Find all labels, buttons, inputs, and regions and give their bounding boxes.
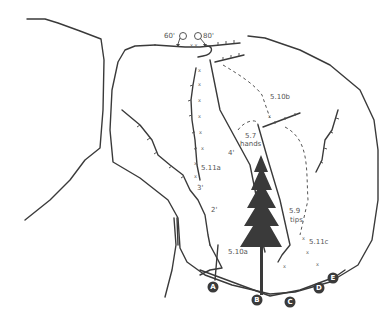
- start-marker-e: E: [328, 273, 339, 284]
- grade-5-10a: 5.10a: [228, 248, 248, 256]
- svg-text:x: x: [194, 173, 197, 179]
- svg-text:x: x: [199, 129, 202, 135]
- grade-5-10b: 5.10b: [270, 93, 291, 101]
- rappel-anchor-left: 60': [164, 32, 187, 47]
- svg-text:C: C: [287, 298, 292, 306]
- grade-5-9: 5.9: [289, 207, 300, 215]
- roof-ledge-2: [215, 55, 244, 62]
- svg-text:x: x: [316, 261, 319, 267]
- svg-text:x: x: [268, 113, 271, 119]
- rappel-label-60: 60': [164, 32, 175, 40]
- route-a-line: [215, 245, 218, 280]
- rappel-label-80: 80': [203, 32, 214, 40]
- summit-edge: [155, 45, 210, 47]
- svg-text:x: x: [198, 97, 201, 103]
- tree-icon: [240, 155, 282, 295]
- svg-text:x: x: [198, 81, 201, 87]
- grade-5-11c: 5.11c: [309, 238, 329, 246]
- note-hands: hands: [240, 140, 262, 148]
- svg-text:x x: x x: [190, 42, 198, 48]
- svg-text:x: x: [302, 235, 305, 241]
- svg-text:x: x: [201, 145, 204, 151]
- svg-text:x: x: [194, 160, 197, 166]
- grade-5-7: 5.7: [245, 132, 256, 140]
- pitch-2: 2': [211, 206, 217, 214]
- svg-text:x: x: [198, 113, 201, 119]
- pitch-3: 3': [197, 184, 203, 192]
- climbing-topo: xxx xxx xx xx xxx x x 60' 80' 5.10b 5.7 …: [0, 0, 391, 325]
- crack-right-ledge-ticks: [275, 113, 295, 124]
- ground-line: [200, 270, 345, 296]
- svg-text:x: x: [198, 67, 201, 73]
- start-marker-d: D: [314, 283, 325, 294]
- svg-text:B: B: [254, 296, 259, 304]
- pitch-4: 4': [228, 149, 234, 157]
- svg-text:x: x: [306, 249, 309, 255]
- note-tips: tips: [290, 216, 303, 224]
- left-rock-outline: [25, 19, 104, 220]
- route-5-7-arc: [238, 121, 258, 130]
- start-marker-c: C: [285, 297, 296, 308]
- svg-text:x: x: [283, 263, 286, 269]
- svg-text:E: E: [331, 274, 336, 282]
- left-crack-lower-2: [177, 218, 178, 245]
- svg-text:A: A: [210, 283, 216, 291]
- grade-5-11a: 5.11a: [201, 164, 221, 172]
- left-crack-lower: [165, 218, 176, 297]
- start-marker-b: B: [252, 295, 263, 306]
- roof-ledge-1: [210, 43, 240, 46]
- start-marker-a: A: [208, 282, 219, 293]
- right-crack: [316, 110, 338, 172]
- route-5-10b: [223, 65, 270, 118]
- svg-text:D: D: [316, 284, 322, 292]
